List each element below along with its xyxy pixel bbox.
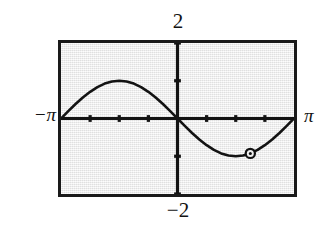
graph-screenshot: 2 −π π −2: [0, 0, 330, 237]
y-axis-min-label: −2: [148, 200, 208, 221]
x-axis-max-label: π: [304, 106, 328, 125]
trace-point-marker[interactable]: [246, 149, 255, 158]
y-axis-max-label: 2: [152, 11, 204, 32]
plot-frame: [58, 40, 297, 197]
x-axis-min-label: −π: [20, 105, 56, 124]
plot-canvas: [61, 43, 294, 194]
